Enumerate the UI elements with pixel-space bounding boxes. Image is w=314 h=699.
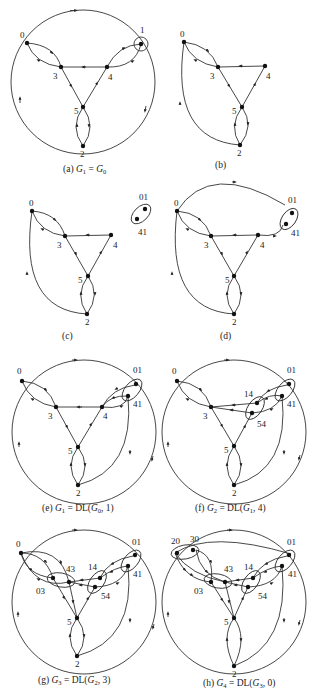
node-label: 41 bbox=[133, 399, 142, 409]
caption-f: (f) G2 = DL(G1, 4) bbox=[195, 503, 266, 514]
node-label: 5 bbox=[224, 617, 229, 627]
node-label: 3 bbox=[210, 71, 215, 81]
node-label: 4 bbox=[266, 71, 271, 81]
node-label: 0 bbox=[17, 366, 22, 376]
panel-h bbox=[162, 530, 306, 674]
node-label: 3 bbox=[48, 411, 53, 421]
caption-h: (h) G4 = DL(G3, 0) bbox=[203, 678, 275, 689]
node-label: 4 bbox=[108, 72, 113, 82]
node-label: 41 bbox=[291, 228, 300, 238]
node-label: 4 bbox=[113, 240, 118, 250]
panel-d bbox=[172, 182, 302, 314]
node-label: 4 bbox=[260, 240, 265, 250]
node-label: 01 bbox=[132, 537, 141, 547]
caption-g: (g) G3 = DL(G2, 3) bbox=[38, 675, 110, 686]
node-label: 43 bbox=[224, 564, 234, 574]
node-label: 01 bbox=[288, 195, 297, 205]
caption-a: (a) G1 = G0 bbox=[63, 164, 106, 175]
node-label: 14 bbox=[244, 562, 254, 572]
panel-captions: (a) G1 = G0 (b) (c) (d) (e) G1 = DL(G0, … bbox=[38, 160, 275, 689]
node-label: 0 bbox=[20, 30, 25, 40]
node-label: 01 bbox=[287, 537, 296, 547]
node-label: 54 bbox=[258, 591, 268, 601]
node-label: 14 bbox=[88, 562, 98, 572]
node-label: 2 bbox=[75, 659, 80, 669]
vertex-dots bbox=[19, 40, 294, 668]
node-label: 03 bbox=[36, 586, 46, 596]
panel-g bbox=[12, 530, 156, 674]
line-digraph-construction-figure: 0 1 3 4 5 2 0 3 4 5 2 0 3 4 5 2 01 41 0 … bbox=[0, 0, 314, 699]
caption-e: (e) G1 = DL(G0, 1) bbox=[42, 503, 114, 514]
outer-cycle bbox=[11, 10, 155, 154]
node-label: 54 bbox=[101, 591, 111, 601]
node-label: 5 bbox=[78, 275, 83, 285]
caption-b: (b) bbox=[215, 160, 226, 171]
node-label: 3 bbox=[203, 411, 208, 421]
panel-f bbox=[162, 360, 306, 504]
node-label: 5 bbox=[67, 617, 72, 627]
node-label: 20 bbox=[171, 536, 181, 546]
node-label: 5 bbox=[74, 106, 79, 116]
node-label: 01 bbox=[139, 192, 148, 202]
node-label: 01 bbox=[133, 365, 142, 375]
node-label: 5 bbox=[225, 275, 230, 285]
node-label: 5 bbox=[68, 446, 73, 456]
node-label: 3 bbox=[204, 240, 209, 250]
node-label: 0 bbox=[16, 539, 21, 549]
node-label: 2 bbox=[80, 149, 85, 159]
node-label: 2 bbox=[232, 317, 237, 327]
cluster-ellipse bbox=[203, 572, 233, 591]
node-label: 3 bbox=[57, 240, 62, 250]
node-label: 14 bbox=[244, 389, 254, 399]
node-label: 3 bbox=[53, 71, 58, 81]
node-label: 41 bbox=[287, 399, 296, 409]
panel-a bbox=[11, 10, 155, 154]
node-label: 54 bbox=[257, 419, 267, 429]
node-label: 41 bbox=[138, 227, 147, 237]
node-label: 0 bbox=[172, 366, 177, 376]
node-label: 2 bbox=[76, 488, 81, 498]
panel-b bbox=[180, 42, 265, 145]
node-label: 4 bbox=[103, 411, 108, 421]
node-label: 03 bbox=[194, 586, 204, 596]
node-label: 2 bbox=[85, 317, 90, 327]
node-label: 0 bbox=[180, 29, 185, 39]
vertex-labels: 0 1 3 4 5 2 0 3 4 5 2 0 3 4 5 2 01 41 0 … bbox=[16, 25, 300, 679]
node-label: 30 bbox=[190, 534, 200, 544]
node-label: 41 bbox=[133, 569, 142, 579]
node-label: 1 bbox=[140, 25, 145, 35]
node-label: 2 bbox=[232, 488, 237, 498]
outer-cycle bbox=[162, 530, 306, 674]
node-label: 01 bbox=[287, 365, 296, 375]
caption-c: (c) bbox=[62, 331, 73, 342]
caption-d: (d) bbox=[220, 331, 231, 342]
node-label: 2 bbox=[237, 148, 242, 158]
node-label: 0 bbox=[29, 198, 34, 208]
node-label: 0 bbox=[174, 198, 179, 208]
node-label: 41 bbox=[288, 569, 297, 579]
node-label: 43 bbox=[66, 564, 76, 574]
panel-e bbox=[12, 360, 156, 504]
node-label: 5 bbox=[232, 106, 237, 116]
outer-cycle bbox=[12, 360, 156, 504]
node-label: 5 bbox=[224, 445, 229, 455]
cluster-ellipse bbox=[128, 201, 155, 228]
